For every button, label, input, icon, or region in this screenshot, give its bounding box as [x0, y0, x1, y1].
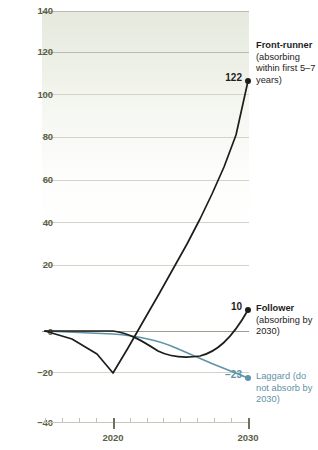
- x-axis-tick-minor: [180, 418, 181, 423]
- annotation-laggard-body: not absorb by 2030): [256, 383, 312, 405]
- x-axis-tick-minor: [62, 418, 63, 423]
- annotation-laggard: Laggard (do not absorb by 2030): [256, 371, 318, 406]
- annotation-frontrunner: Front-runner (absorbing within first 5–7…: [256, 40, 318, 86]
- annotation-follower-title: Follower: [256, 303, 318, 315]
- x-axis-tick-minor: [130, 418, 131, 423]
- endpoint-dot-laggard: [245, 375, 251, 381]
- value-label-follower: 10: [198, 301, 242, 312]
- x-axis-tick-minor: [45, 418, 46, 423]
- x-axis-tick-minor: [197, 418, 198, 423]
- x-axis-tick-minor: [214, 418, 215, 423]
- x-axis-label-2020: 2020: [102, 432, 123, 443]
- value-label-frontrunner: 122: [190, 72, 242, 83]
- x-axis-label-2030: 2030: [237, 432, 258, 443]
- endpoint-dot-follower: [245, 307, 251, 313]
- chart-container: 140 120 100 80 60 40 20 0 −20 −40 122 10…: [0, 0, 318, 450]
- x-axis-tick-2020: [113, 418, 115, 429]
- annotation-follower-body: (absorbing by 2030): [256, 315, 312, 337]
- annotation-follower: Follower (absorbing by 2030): [256, 303, 318, 338]
- series-line-frontrunner: [45, 81, 248, 373]
- x-axis-tick-2030: [248, 418, 250, 429]
- x-axis-line: [42, 422, 249, 423]
- x-axis-tick-minor: [231, 418, 232, 423]
- x-axis-tick-minor: [96, 418, 97, 423]
- endpoint-dot-frontrunner: [245, 78, 251, 84]
- annotation-frontrunner-title: Front-runner: [256, 40, 318, 52]
- value-label-laggard: −23: [198, 369, 242, 380]
- x-axis-tick-minor: [79, 418, 80, 423]
- annotation-laggard-title: Laggard (do: [256, 371, 318, 383]
- x-axis-tick-minor: [163, 418, 164, 423]
- annotation-frontrunner-body: (absorbing within first 5–7 years): [256, 52, 315, 85]
- x-axis-tick-minor: [147, 418, 148, 423]
